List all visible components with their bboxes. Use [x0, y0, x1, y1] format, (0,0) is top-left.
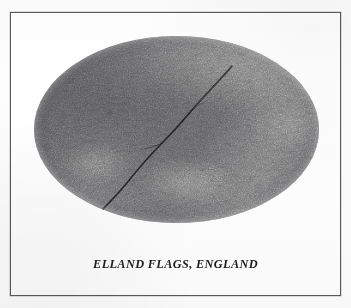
figure-caption: ELLAND FLAGS, ENGLAND: [11, 257, 340, 272]
plate-page: ELLAND FLAGS, ENGLAND: [0, 0, 351, 308]
stone-fracture-line: [34, 36, 319, 223]
stone-photograph: [34, 36, 319, 223]
photo-area: [34, 36, 319, 223]
figure-frame: ELLAND FLAGS, ENGLAND: [10, 12, 341, 296]
